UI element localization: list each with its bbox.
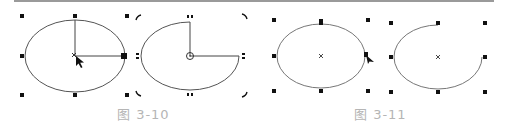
fig-3-10-pie: [136, 14, 247, 97]
fig-3-10-ellipse: [20, 14, 129, 97]
arrow-cursor-icon: [76, 56, 84, 68]
fig-3-11-arc: [389, 21, 487, 94]
center-x-icon: [319, 54, 323, 58]
figure-caption-3-10: 图 3-10: [117, 104, 170, 123]
center-x-icon: [436, 55, 440, 59]
diagram-canvas: [0, 0, 505, 131]
fig-3-11-ellipse: [272, 18, 374, 93]
figure-caption-3-11: 图 3-11: [354, 104, 407, 123]
arrow-cursor-icon: [366, 55, 374, 64]
